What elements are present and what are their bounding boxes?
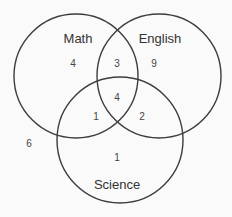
science-label: Science bbox=[94, 177, 140, 192]
region-math-science: 1 bbox=[93, 111, 99, 122]
region-science-only: 1 bbox=[114, 152, 120, 163]
region-math-english: 3 bbox=[114, 58, 120, 69]
region-english-science: 2 bbox=[139, 111, 145, 122]
region-all-three: 4 bbox=[114, 92, 120, 103]
region-none: 6 bbox=[26, 138, 32, 149]
venn-diagram: Math English Science 4 3 9 4 1 2 1 6 bbox=[0, 0, 232, 217]
english-label: English bbox=[139, 31, 182, 46]
region-math-only: 4 bbox=[70, 58, 76, 69]
region-english-only: 9 bbox=[151, 58, 157, 69]
math-label: Math bbox=[64, 31, 93, 46]
